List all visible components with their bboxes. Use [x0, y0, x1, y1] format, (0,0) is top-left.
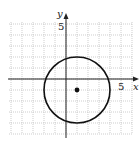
center-point	[75, 88, 80, 93]
y-axis-label: y	[56, 8, 63, 19]
grid	[9, 22, 132, 134]
x-tick-label: 5	[118, 81, 124, 92]
coordinate-plane: x y 5 5	[0, 0, 140, 145]
x-axis-label: x	[133, 81, 139, 92]
y-axis-arrow-icon	[64, 13, 69, 19]
y-tick-label: 5	[58, 21, 64, 32]
